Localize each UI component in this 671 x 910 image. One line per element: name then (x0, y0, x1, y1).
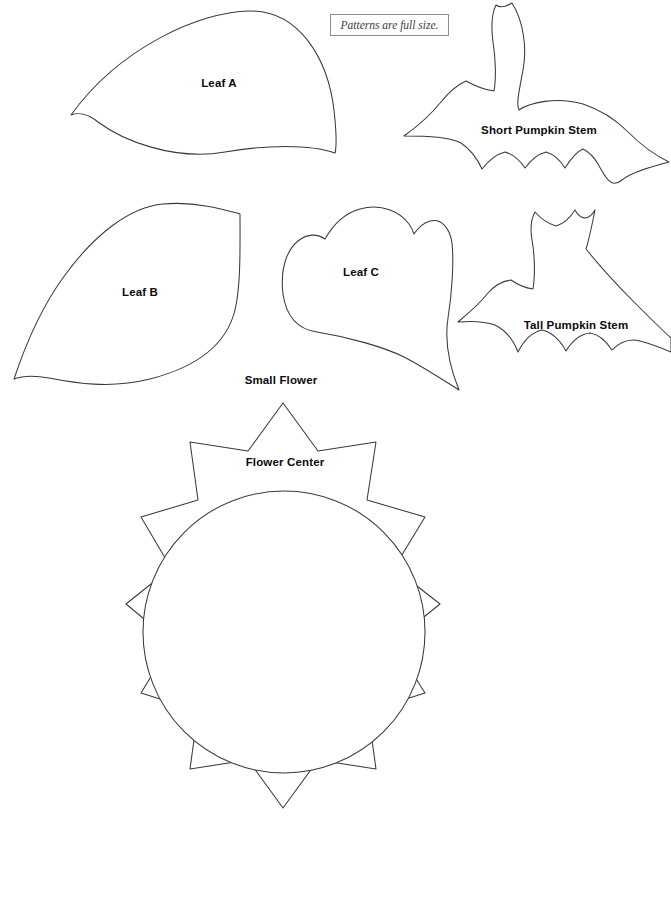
label-leaf-c: Leaf C (343, 266, 379, 278)
label-large-flower: Small Flower (245, 374, 318, 386)
piece-leaf-c[interactable] (282, 207, 459, 390)
full-size-note-text: Patterns are full size. (341, 19, 439, 31)
pattern-sheet: Leaf A Short Pumpkin Stem Leaf B Leaf C … (0, 0, 671, 910)
label-tall-pumpkin-stem: Tall Pumpkin Stem (524, 319, 629, 331)
full-size-note: Patterns are full size. (330, 14, 449, 36)
label-leaf-b: Leaf B (122, 286, 158, 298)
label-short-pumpkin-stem: Short Pumpkin Stem (481, 124, 597, 136)
piece-flower-center[interactable] (143, 491, 425, 773)
label-leaf-a: Leaf A (201, 77, 237, 89)
label-small-flower: Flower Center (246, 456, 325, 468)
pattern-canvas: Leaf A Short Pumpkin Stem Leaf B Leaf C … (0, 0, 671, 910)
